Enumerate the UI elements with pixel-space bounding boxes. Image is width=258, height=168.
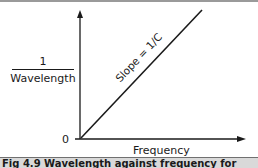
y-label-numerator: 1 bbox=[10, 55, 76, 68]
origin-label: 0 bbox=[62, 133, 69, 146]
y-axis-label: 1 Wavelength bbox=[10, 55, 76, 85]
x-axis-label: Frequency bbox=[133, 144, 190, 157]
data-line bbox=[81, 10, 202, 138]
y-axis-arrow-icon bbox=[77, 10, 83, 18]
y-axis bbox=[77, 10, 83, 139]
fraction-bar bbox=[12, 69, 74, 70]
x-axis-arrow-icon bbox=[237, 136, 246, 142]
x-axis bbox=[75, 136, 246, 142]
figure-caption: Fig 4.9 Wavelength against frequency for bbox=[0, 157, 258, 168]
y-label-denominator: Wavelength bbox=[10, 72, 76, 85]
